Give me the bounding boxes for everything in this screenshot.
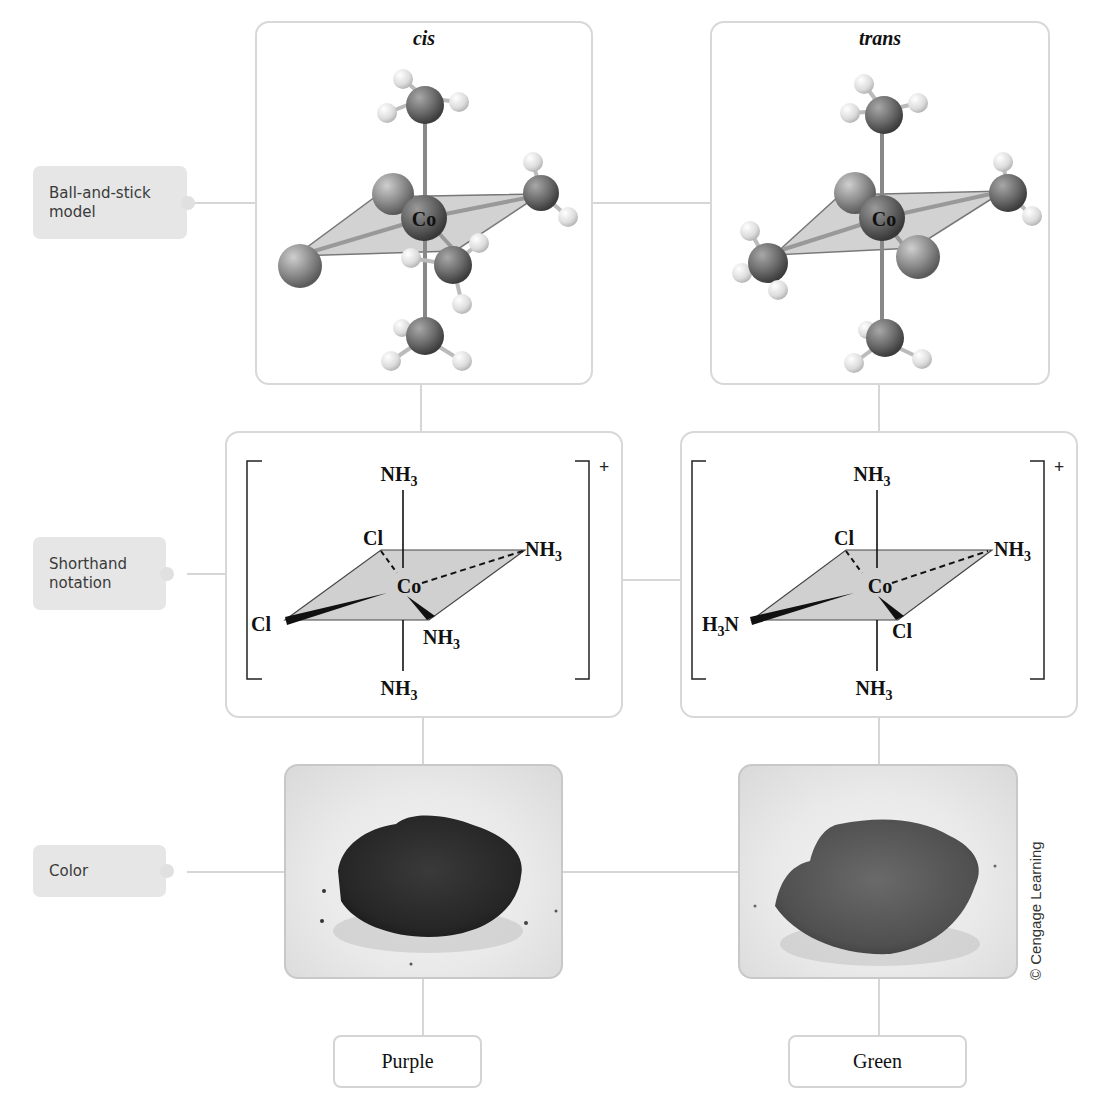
svg-text:NH3: NH3 — [994, 538, 1031, 564]
ligand-back-left: Cl — [834, 527, 854, 549]
copyright-notice: © Cengage Learning — [1027, 841, 1044, 980]
connector-cis-2-3 — [422, 717, 424, 765]
svg-text:NH3: NH3 — [854, 463, 891, 489]
row-label-text: Color — [49, 862, 166, 881]
ligand-front-right: Cl — [892, 620, 912, 642]
row-label-ball-and-stick: Ball-and-stick model — [33, 166, 187, 239]
center-atom-co: Co — [868, 575, 892, 597]
row-label-text-line1: Shorthand — [49, 555, 166, 574]
photo-trans-powder — [738, 764, 1018, 979]
purple-powder-pile — [286, 766, 563, 979]
ligand-bottom: NH — [856, 677, 886, 699]
svg-text:NH3: NH3 — [856, 677, 893, 703]
ligand-front-left: Cl — [251, 613, 271, 635]
ligand-bottom: NH — [381, 677, 411, 699]
connector-cis-1-2 — [420, 384, 422, 432]
svg-text:NH3: NH3 — [525, 538, 562, 564]
co-atom-label: Co — [872, 208, 896, 230]
connector-knob — [160, 864, 174, 878]
row-label-text-line2: model — [49, 203, 187, 222]
ligand-back-right: NH — [525, 538, 555, 560]
connector-row3-between — [562, 871, 739, 873]
svg-text:NH3: NH3 — [381, 463, 418, 489]
row-label-color: Color — [33, 845, 166, 897]
connector-trans-2-3 — [878, 717, 880, 765]
ball-and-stick-panel-trans: trans Co — [710, 21, 1050, 385]
result-color-trans: Green — [788, 1035, 967, 1088]
ligand-top: NH — [381, 463, 411, 485]
shorthand-panel-cis: + NH3 Cl NH3 Co Cl NH3 NH3 — [225, 431, 623, 718]
connector-knob — [181, 196, 195, 210]
trans-ball-and-stick-model: Co — [712, 23, 1050, 385]
ligand-front-left-h: H — [702, 613, 718, 635]
trans-shorthand-structure: + NH3 Cl NH3 Co H3N Cl NH3 — [682, 433, 1078, 718]
cis-ball-and-stick-model: Co — [257, 23, 593, 385]
svg-text:H3N: H3N — [702, 613, 740, 639]
shorthand-panel-trans: + NH3 Cl NH3 Co H3N Cl NH3 — [680, 431, 1078, 718]
row-label-text-line1: Ball-and-stick — [49, 184, 187, 203]
result-color-cis: Purple — [333, 1035, 482, 1088]
co-atom-label: Co — [412, 208, 436, 230]
svg-text:NH3: NH3 — [423, 626, 460, 652]
row-label-shorthand: Shorthand notation — [33, 537, 166, 610]
charge-label: + — [1054, 457, 1064, 477]
connector-cis-3-4 — [422, 978, 424, 1035]
connector-trans-3-4 — [878, 978, 880, 1035]
connector-row2-between — [623, 579, 681, 581]
ball-and-stick-panel-cis: cis — [255, 21, 593, 385]
connector-trans-1-2 — [878, 384, 880, 432]
connector-row1-between — [592, 202, 710, 204]
connector-row2-label — [187, 573, 227, 575]
ligand-front-right: NH — [423, 626, 453, 648]
center-atom-co: Co — [397, 575, 421, 597]
connector-knob — [160, 567, 174, 581]
ligand-back-left: Cl — [363, 527, 383, 549]
connector-row1-label — [187, 202, 255, 204]
ligand-back-right: NH — [994, 538, 1024, 560]
photo-cis-powder — [284, 764, 563, 979]
row-label-text-line2: notation — [49, 574, 166, 593]
green-powder-pile — [740, 766, 1018, 979]
svg-text:NH3: NH3 — [381, 677, 418, 703]
connector-row3-label — [187, 871, 285, 873]
charge-label: + — [599, 457, 609, 477]
cis-shorthand-structure: + NH3 Cl NH3 Co Cl NH3 NH3 — [227, 433, 623, 718]
ligand-top: NH — [854, 463, 884, 485]
